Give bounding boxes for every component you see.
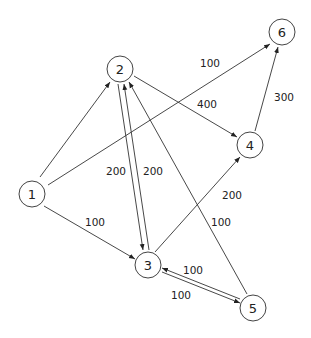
- edge-label-2-4: 400: [197, 98, 217, 110]
- node-1: 1: [19, 181, 45, 207]
- node-6: 6: [269, 19, 295, 45]
- edge-label-2-3: 200: [106, 165, 126, 177]
- node-4: 4: [237, 132, 263, 158]
- edge-label-5-3: 100: [183, 264, 203, 276]
- node-label-6: 6: [278, 25, 286, 40]
- graph-diagram: 100 400 300 200 200 200 100 100 100 100 …: [0, 0, 311, 338]
- node-label-1: 1: [28, 187, 36, 202]
- node-label-2: 2: [116, 62, 124, 77]
- node-3: 3: [135, 252, 161, 278]
- edge-4-to-6: [255, 47, 278, 131]
- edge-label-4-6: 300: [274, 91, 294, 103]
- node-label-4: 4: [246, 138, 254, 153]
- edge-1-to-6: [48, 44, 270, 185]
- node-5: 5: [240, 295, 266, 321]
- edge-label-1-6: 100: [200, 57, 220, 69]
- edge-1-to-3: [44, 206, 135, 259]
- edge-label-5-2: 100: [211, 216, 231, 228]
- edge-2-to-4: [134, 76, 237, 137]
- node-label-3: 3: [144, 258, 152, 273]
- edge-label-3-4: 200: [222, 189, 242, 201]
- edge-label-3-5: 100: [171, 289, 191, 301]
- edge-labels: 100 400 300 200 200 200 100 100 100 100: [85, 57, 294, 301]
- edge-1-to-2: [40, 82, 110, 177]
- node-2: 2: [107, 56, 133, 82]
- node-label-5: 5: [249, 301, 257, 316]
- edge-label-3-2: 200: [143, 165, 163, 177]
- edge-label-1-3: 100: [85, 216, 105, 228]
